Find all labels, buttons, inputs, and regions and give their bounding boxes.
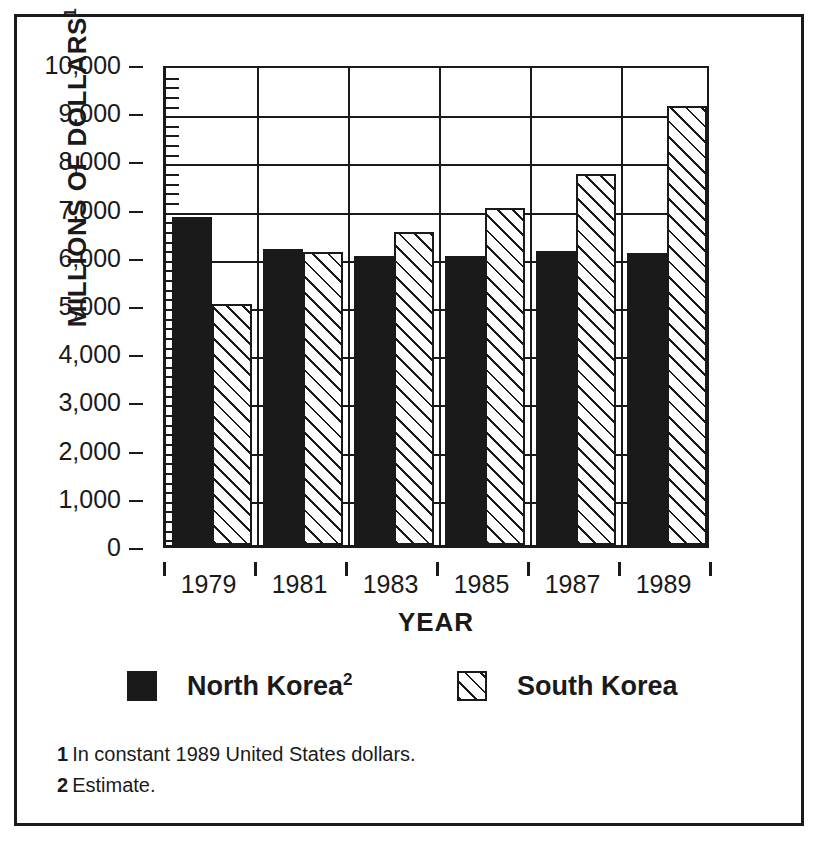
bar-group [439, 68, 530, 545]
bar-north-korea-1979 [172, 217, 212, 545]
bar-south-korea-1979 [212, 304, 252, 545]
footnote-marker: 1 [57, 743, 68, 765]
footnote-text: In constant 1989 United States dollars. [72, 743, 416, 765]
plot-area [163, 66, 709, 548]
y-axis-major-tick [129, 211, 143, 213]
x-axis-title: YEAR [163, 607, 709, 638]
bar-north-korea-1987 [536, 251, 576, 545]
bar-group [166, 68, 257, 545]
legend-label: South Korea [517, 671, 678, 702]
chart-figure: 01,0002,0003,0004,0005,0006,0007,0008,00… [14, 14, 804, 826]
bar-north-korea-1985 [445, 256, 485, 545]
bar-south-korea-1983 [394, 232, 434, 545]
footnote: 2Estimate. [57, 770, 757, 801]
x-axis-tick-label: 1987 [527, 572, 618, 597]
legend-label: North Korea2 [187, 670, 352, 702]
y-axis-title: MILLIONS OF DOLLARS1 [62, 0, 93, 378]
y-axis-tick-label: 1,000 [58, 487, 121, 512]
x-axis-tick-mark [345, 562, 348, 576]
bar-group [348, 68, 439, 545]
x-axis-tick-mark [618, 562, 621, 576]
y-axis-major-tick [129, 403, 143, 405]
bar-south-korea-1985 [485, 208, 525, 545]
bar-north-korea-1983 [354, 256, 394, 545]
bar-south-korea-1981 [303, 252, 343, 545]
x-axis-tick-label: 1979 [163, 572, 254, 597]
bar-south-korea-1987 [576, 174, 616, 545]
bar-group [621, 68, 712, 545]
x-axis-tick-label: 1981 [254, 572, 345, 597]
x-axis-tick-mark [436, 562, 439, 576]
y-axis-tick-label: 3,000 [58, 390, 121, 415]
x-axis-tick-mark [527, 562, 530, 576]
legend-swatch-icon [127, 671, 157, 701]
x-axis-tick-mark [254, 562, 257, 576]
y-axis-tick-label: 2,000 [58, 439, 121, 464]
y-axis-major-tick [129, 452, 143, 454]
y-axis-title-text: MILLIONS OF DOLLARS [62, 17, 92, 327]
legend-item-north-korea[interactable]: North Korea2 [127, 665, 352, 707]
footnote-marker: 2 [57, 774, 68, 796]
bar-north-korea-1989 [627, 253, 667, 545]
bar-group [257, 68, 348, 545]
y-axis-tick-label: 0 [107, 535, 121, 560]
legend-swatch-icon [457, 671, 487, 701]
y-axis-major-tick [129, 162, 143, 164]
footnote: 1In constant 1989 United States dollars. [57, 739, 757, 770]
y-axis-major-tick [129, 307, 143, 309]
footnote-text: Estimate. [72, 774, 155, 796]
y-axis-major-tick [129, 500, 143, 502]
x-axis-tick-label: 1989 [618, 572, 709, 597]
y-axis-major-tick [129, 355, 143, 357]
chart-legend: North Korea2South Korea [127, 665, 727, 715]
y-axis-major-tick [129, 259, 143, 261]
legend-item-south-korea[interactable]: South Korea [457, 665, 678, 707]
bar-group [530, 68, 621, 545]
bar-north-korea-1981 [263, 249, 303, 545]
legend-footnote-marker: 2 [343, 670, 352, 689]
y-axis-major-tick [129, 548, 143, 550]
x-axis-tick-mark [709, 562, 712, 576]
x-axis-tick-label: 1983 [345, 572, 436, 597]
bar-south-korea-1989 [667, 106, 707, 545]
x-axis-tick-labels: 197919811983198519871989 [163, 562, 709, 602]
x-axis-tick-mark [163, 562, 166, 576]
y-axis-title-footnote-marker: 1 [62, 8, 79, 17]
y-axis-major-tick [129, 114, 143, 116]
y-axis-major-tick [129, 66, 143, 68]
footnotes-block: 1In constant 1989 United States dollars.… [57, 739, 757, 801]
x-axis-tick-label: 1985 [436, 572, 527, 597]
